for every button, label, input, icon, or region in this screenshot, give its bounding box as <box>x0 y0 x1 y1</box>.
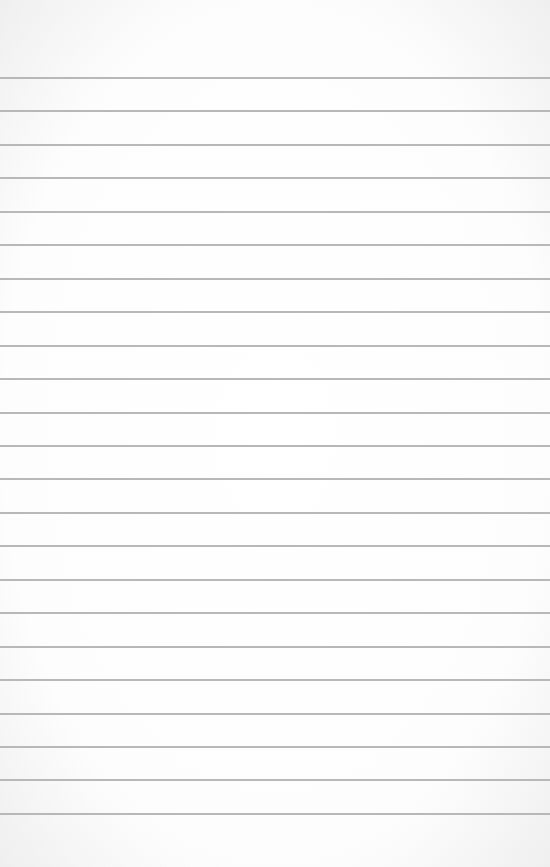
ruled-line <box>0 813 550 815</box>
ruled-line <box>0 177 550 179</box>
ruled-line <box>0 679 550 681</box>
ruled-line <box>0 478 550 480</box>
ruled-line <box>0 77 550 79</box>
ruled-line <box>0 378 550 380</box>
lined-paper <box>0 0 550 867</box>
ruled-line <box>0 144 550 146</box>
ruled-line <box>0 646 550 648</box>
ruled-line <box>0 579 550 581</box>
ruled-line <box>0 445 550 447</box>
ruled-line <box>0 211 550 213</box>
ruled-line <box>0 746 550 748</box>
ruled-line <box>0 345 550 347</box>
ruled-line <box>0 278 550 280</box>
ruled-line <box>0 512 550 514</box>
ruled-line <box>0 244 550 246</box>
ruled-line <box>0 110 550 112</box>
ruled-line <box>0 612 550 614</box>
ruled-line <box>0 412 550 414</box>
ruled-line <box>0 545 550 547</box>
ruled-line <box>0 779 550 781</box>
ruled-line <box>0 311 550 313</box>
ruled-line <box>0 713 550 715</box>
